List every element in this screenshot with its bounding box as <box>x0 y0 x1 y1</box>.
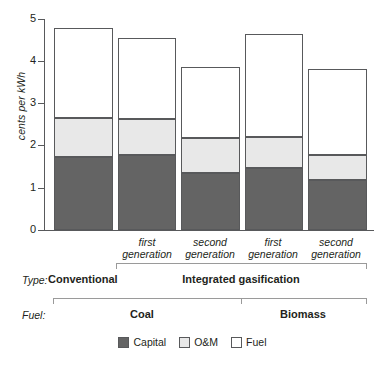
type-row-key: Type: <box>22 274 47 286</box>
gen-label-bar3: second generation <box>179 236 241 260</box>
legend-label-om: O&M <box>194 336 218 348</box>
bar-3-segment-fuel[interactable] <box>181 67 240 138</box>
y-tick-label-0: 0 <box>12 224 36 235</box>
bar-5-segment-fuel[interactable] <box>308 69 367 155</box>
gen-label-bar4: first generation <box>242 236 304 260</box>
type-value-conventional: Conventional <box>48 273 166 285</box>
fuel-value-biomass: Biomass <box>265 308 341 320</box>
legend-item-om[interactable]: O&M <box>179 336 218 348</box>
bar-4[interactable] <box>245 34 304 230</box>
bar-1-segment-capital[interactable] <box>54 157 113 230</box>
type-value-integrated-gasification: Integrated gasification <box>161 273 321 285</box>
y-axis-line <box>44 19 45 231</box>
bar-2-segment-om[interactable] <box>118 119 177 155</box>
gen-label-bar3-line1: second <box>179 236 241 248</box>
gen-label-bar4-line2: generation <box>242 248 304 260</box>
gen-label-bar3-line2: generation <box>179 248 241 260</box>
y-tick-label-2: 2 <box>12 139 36 150</box>
y-tick-5 <box>38 19 45 20</box>
y-tick-2 <box>38 145 45 146</box>
y-tick-label-1: 1 <box>12 182 36 193</box>
gen-label-bar2-line2: generation <box>116 248 178 260</box>
bar-1-segment-fuel[interactable] <box>54 28 113 118</box>
bar-5[interactable] <box>308 69 367 230</box>
legend-item-capital[interactable]: Capital <box>118 336 166 348</box>
y-tick-label-4: 4 <box>12 55 36 66</box>
chart-container: cents per kWh 5 4 3 2 1 0 first generati… <box>0 0 385 367</box>
bar-3[interactable] <box>181 67 240 230</box>
bar-4-segment-fuel[interactable] <box>245 34 304 137</box>
bar-2-segment-capital[interactable] <box>118 155 177 230</box>
fuel-bracket-divider <box>241 298 242 304</box>
fuel-value-coal: Coal <box>107 308 177 320</box>
legend-swatch-fuel-icon <box>231 337 242 348</box>
legend-item-fuel[interactable]: Fuel <box>231 336 266 348</box>
bar-3-segment-capital[interactable] <box>181 173 240 230</box>
fuel-row-key: Fuel: <box>22 309 45 321</box>
bar-4-segment-capital[interactable] <box>245 168 304 230</box>
gen-label-bar2-line1: first <box>116 236 178 248</box>
y-tick-3 <box>38 103 45 104</box>
legend-label-fuel: Fuel <box>246 336 266 348</box>
bar-3-segment-om[interactable] <box>181 138 240 173</box>
gen-label-bar5-line2: generation <box>305 248 367 260</box>
legend-swatch-capital-icon <box>118 337 129 348</box>
chart-legend: Capital O&M Fuel <box>0 336 385 348</box>
y-tick-1 <box>38 188 45 189</box>
y-tick-4 <box>38 61 45 62</box>
type-bracket-integrated-gasification <box>116 263 367 269</box>
bar-4-segment-om[interactable] <box>245 137 304 168</box>
y-tick-label-5: 5 <box>12 13 36 24</box>
bar-1-segment-om[interactable] <box>54 118 113 158</box>
gen-label-bar2: first generation <box>116 236 178 260</box>
gen-label-bar5-line1: second <box>305 236 367 248</box>
gen-label-bar4-line1: first <box>242 236 304 248</box>
legend-label-capital: Capital <box>133 336 166 348</box>
bar-2-segment-fuel[interactable] <box>118 38 177 119</box>
gen-label-bar5: second generation <box>305 236 367 260</box>
fuel-bracket <box>53 298 367 304</box>
x-axis-line <box>44 230 374 231</box>
legend-swatch-om-icon <box>179 337 190 348</box>
y-tick-label-3: 3 <box>12 97 36 108</box>
y-tick-0 <box>38 230 45 231</box>
bar-2[interactable] <box>118 38 177 230</box>
bar-5-segment-capital[interactable] <box>308 180 367 230</box>
bar-5-segment-om[interactable] <box>308 155 367 180</box>
bar-1[interactable] <box>54 28 113 230</box>
